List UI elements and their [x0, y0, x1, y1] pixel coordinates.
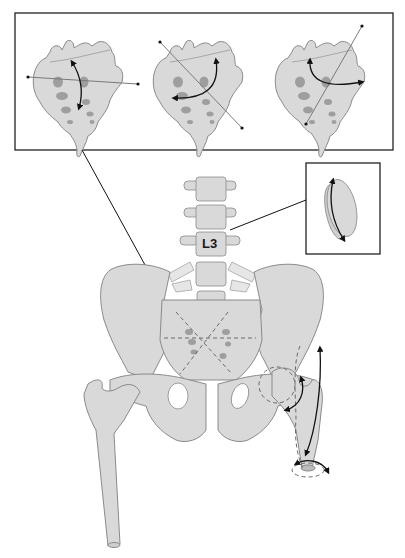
- disc-callout-line: [230, 200, 306, 230]
- diagram-canvas: [0, 0, 405, 558]
- obturator-foramina: [168, 381, 252, 411]
- left-femur: [84, 380, 140, 548]
- vertebra-label-l3: L3: [202, 236, 217, 251]
